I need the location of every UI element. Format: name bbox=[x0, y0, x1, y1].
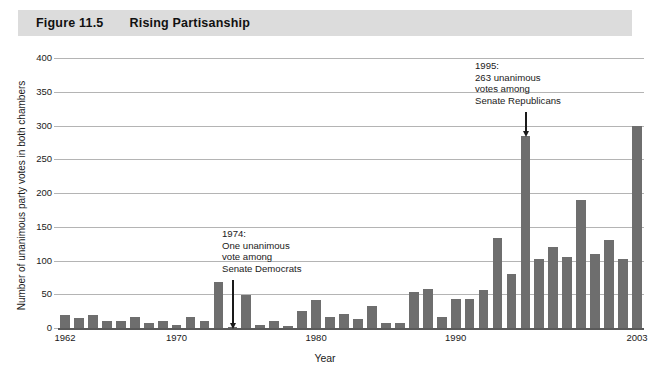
x-tick-label: 2003 bbox=[626, 332, 647, 343]
bar bbox=[339, 314, 349, 328]
bar bbox=[632, 126, 642, 329]
bar bbox=[521, 136, 531, 328]
figure-number: Figure 11.5 bbox=[36, 16, 104, 30]
bar bbox=[241, 295, 251, 328]
chart-area: Number of unanimous party votes in both … bbox=[0, 40, 650, 371]
bar bbox=[451, 299, 461, 328]
bar bbox=[353, 319, 363, 328]
bar bbox=[116, 321, 126, 328]
bar bbox=[507, 274, 517, 328]
y-tick-label: 300 bbox=[22, 121, 52, 131]
bar bbox=[604, 240, 614, 328]
annotation-arrow-icon bbox=[232, 280, 233, 324]
x-tick-label: 1990 bbox=[445, 332, 466, 343]
x-axis-ticks: 19621970198019902003 bbox=[58, 332, 644, 348]
y-tick-label: 100 bbox=[22, 256, 52, 266]
annotation-arrow-icon bbox=[525, 112, 526, 132]
bar bbox=[423, 289, 433, 328]
bar bbox=[102, 321, 112, 328]
annotation-text: 1995: 263 unanimous votes among Senate R… bbox=[475, 60, 561, 106]
bar bbox=[590, 254, 600, 328]
bar bbox=[311, 300, 321, 328]
bar bbox=[618, 259, 628, 328]
bar bbox=[186, 317, 196, 328]
bar bbox=[479, 290, 489, 328]
bar bbox=[562, 257, 572, 328]
gridline bbox=[58, 159, 644, 160]
bar bbox=[325, 317, 335, 328]
bar bbox=[297, 311, 307, 328]
bar bbox=[409, 292, 419, 328]
bar bbox=[576, 200, 586, 328]
y-tick-label: 400 bbox=[22, 53, 52, 63]
bar bbox=[493, 238, 503, 328]
bar bbox=[88, 315, 98, 329]
bar bbox=[367, 306, 377, 328]
bar bbox=[214, 282, 224, 328]
bar bbox=[534, 259, 544, 328]
y-tick-label: 50 bbox=[22, 290, 52, 300]
y-axis-ticks: 050100150200250300350400 bbox=[18, 58, 52, 328]
x-axis-title: Year bbox=[0, 352, 650, 364]
y-tick-label: 350 bbox=[22, 87, 52, 97]
bar bbox=[130, 317, 140, 328]
bar bbox=[437, 317, 447, 328]
figure-title: Rising Partisanship bbox=[130, 16, 251, 30]
bar bbox=[548, 247, 558, 328]
x-tick-label: 1970 bbox=[166, 332, 187, 343]
gridline bbox=[58, 58, 644, 59]
x-tick-label: 1980 bbox=[306, 332, 327, 343]
bar bbox=[60, 315, 70, 329]
y-tick-label: 200 bbox=[22, 188, 52, 198]
x-tick-label: 1962 bbox=[54, 332, 75, 343]
gridline bbox=[58, 126, 644, 127]
figure-header: Figure 11.5 Rising Partisanship bbox=[18, 10, 632, 36]
bar bbox=[158, 321, 168, 328]
bar bbox=[465, 299, 475, 328]
bar bbox=[200, 321, 210, 328]
gridline bbox=[58, 227, 644, 228]
annotation-text: 1974: One unanimous vote among Senate De… bbox=[222, 228, 301, 274]
bar bbox=[74, 318, 84, 328]
y-tick-label: 150 bbox=[22, 222, 52, 232]
y-tick-label: 250 bbox=[22, 155, 52, 165]
gridline bbox=[58, 193, 644, 194]
y-tick-label: 0 bbox=[22, 323, 52, 333]
x-axis-line bbox=[58, 328, 644, 330]
bar bbox=[269, 321, 279, 328]
